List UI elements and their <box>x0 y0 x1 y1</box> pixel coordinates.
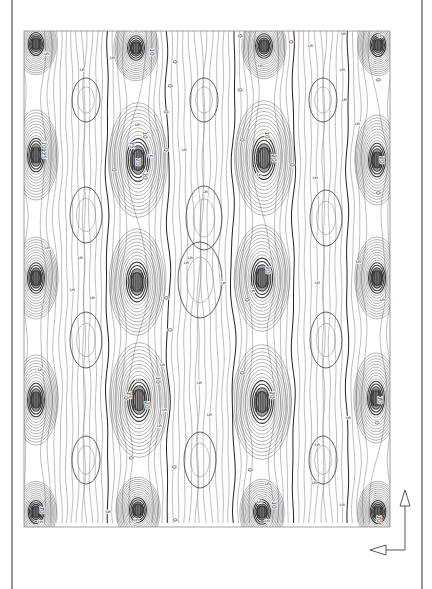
contour-label: 0 <box>171 465 178 469</box>
contour-label: 0 <box>163 110 170 114</box>
contour-label: 5 <box>77 256 84 260</box>
contour-label: 0 <box>375 191 382 195</box>
contour-label: 5 <box>345 416 352 420</box>
contour-label: 5 <box>37 368 44 372</box>
contour-label: 5 <box>264 519 271 523</box>
contour-label: 5 <box>79 68 86 72</box>
contour-label: 20 <box>144 401 151 409</box>
contour-label: 5 <box>159 363 166 367</box>
contour-lines <box>14 13 399 545</box>
contour-label: 10 <box>149 48 156 56</box>
contour-label: 10 <box>41 141 48 149</box>
contour-label: 0 <box>167 84 174 88</box>
contour-label: 5 <box>256 173 263 177</box>
contour-label: 5 <box>377 34 384 38</box>
contour-label: 5 <box>355 260 362 264</box>
contour-label: 5 <box>311 481 318 485</box>
contour-label: 5 <box>44 246 51 250</box>
contour-label: 10 <box>142 131 149 139</box>
contour-label: 0 <box>289 163 296 167</box>
contour-label: 0 <box>237 88 244 92</box>
contour-label: 20 <box>379 156 386 164</box>
contour-label: 15 <box>129 141 136 149</box>
contour-label: 5 <box>187 256 194 260</box>
contour-label: 0 <box>247 468 254 472</box>
contour-label: 5 <box>196 381 203 385</box>
arrow-left-icon <box>370 545 405 555</box>
contour-label: 5 <box>156 424 163 428</box>
contour-label: 0 <box>244 298 251 302</box>
contour-label: 5 <box>161 408 168 412</box>
contour-label: 5 <box>307 44 314 48</box>
contour-label: 5 <box>341 98 348 102</box>
contour-label: - <box>19 149 26 151</box>
contour-label: 5 <box>379 298 386 302</box>
contour-label: 5 <box>256 500 263 504</box>
contour-label: 0 <box>172 60 179 64</box>
contour-label: -5 <box>147 152 154 158</box>
contour-label: 5 <box>314 281 321 285</box>
contour-label: 5 <box>105 510 112 514</box>
contour-label: 0 <box>239 138 246 142</box>
contour-label: 5 <box>133 518 140 522</box>
contour-label: 10 <box>376 515 383 523</box>
contour-label: 10 <box>155 376 162 384</box>
contour-label: 10 <box>39 506 46 514</box>
contour-label: 5 <box>134 123 141 127</box>
contour-label: 5 <box>109 56 116 60</box>
contour-labels: 5105050055550550005101520-5-100055-10151… <box>19 32 386 524</box>
contour-label: 5 <box>181 148 188 152</box>
contour-label: 0 <box>288 40 295 44</box>
contour-label: 5 <box>314 443 321 447</box>
contour-label: 10 <box>271 501 278 509</box>
contour-label: 15 <box>41 151 48 159</box>
contour-label: 0 <box>172 518 179 522</box>
contour-label: 5 <box>257 64 264 68</box>
contour-label: 5 <box>89 296 96 300</box>
contour-label: 20 <box>135 158 142 166</box>
contour-label: 20 <box>265 266 272 274</box>
contour-label: 5 <box>69 288 76 292</box>
contour-figure: 5105050055550550005101520-5-100055-10151… <box>0 0 432 589</box>
contour-label: 0 <box>111 168 118 172</box>
contour-label: 5 <box>206 413 213 417</box>
contour-label: 20 <box>269 391 276 399</box>
plot-area: 5105050055550550005101520-5-100055-10151… <box>14 13 399 545</box>
contour-label: 5 <box>340 32 347 36</box>
contour-label: 0 <box>163 148 170 152</box>
contour-label: 10 <box>377 396 384 404</box>
contour-label: 5 <box>312 176 319 180</box>
contour-label: 0 <box>163 296 170 300</box>
contour-label: 5 <box>43 52 50 56</box>
contour-label: 5 <box>354 122 361 126</box>
contour-label: 5 <box>339 503 346 507</box>
contour-label: 5 <box>202 190 209 194</box>
contour-label: -10 <box>142 170 149 180</box>
contour-label: -5 <box>249 287 256 293</box>
contour-label: 5 <box>183 261 190 265</box>
contour-label: 10 <box>264 131 271 139</box>
contour-label: 0 <box>128 456 135 460</box>
contour-label: 5 <box>135 378 142 382</box>
arrow-up-icon <box>400 490 410 550</box>
contour-label: 5 <box>339 68 346 72</box>
contour-label: 5 <box>37 520 44 524</box>
contour-label: 0 <box>375 78 382 82</box>
contour-label: 0 <box>123 396 130 400</box>
contour-plot-canvas: 5105050055550550005101520-5-100055-10151… <box>0 0 432 589</box>
contour-label: 0 <box>239 371 246 375</box>
contour-label: 0 <box>167 328 174 332</box>
contour-label: 0 <box>237 34 244 38</box>
contour-label: 5 <box>264 482 271 486</box>
contour-label: -5 <box>220 279 227 285</box>
contour-label: 20 <box>271 154 278 162</box>
contour-label: 0 <box>374 421 381 425</box>
